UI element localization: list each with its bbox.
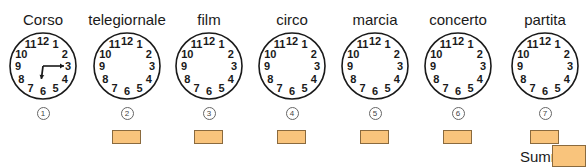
svg-text:2: 2 — [477, 48, 483, 60]
svg-text:7: 7 — [359, 82, 365, 94]
clock-number-badge: 5 — [335, 106, 415, 120]
clock-face: 121234567891011 — [92, 31, 162, 101]
svg-text:8: 8 — [433, 73, 439, 85]
clock-face: 121234567891011 — [510, 31, 580, 101]
svg-text:12: 12 — [203, 35, 215, 47]
svg-text:8: 8 — [18, 73, 24, 85]
svg-text:12: 12 — [452, 35, 464, 47]
svg-text:12: 12 — [37, 35, 49, 47]
svg-text:3: 3 — [480, 60, 486, 72]
svg-text:11: 11 — [109, 38, 121, 50]
answer-box[interactable] — [443, 130, 472, 144]
svg-text:8: 8 — [350, 73, 356, 85]
clock-number-badge: 4 — [252, 106, 332, 120]
clock-label: concerto — [418, 11, 498, 28]
svg-text:4: 4 — [564, 73, 571, 85]
svg-text:4: 4 — [62, 73, 69, 85]
answer-box[interactable] — [277, 130, 306, 144]
svg-text:9: 9 — [517, 60, 523, 72]
svg-text:4: 4 — [311, 73, 318, 85]
svg-text:11: 11 — [191, 38, 203, 50]
clock-number-badge: 2 — [87, 106, 167, 120]
svg-text:3: 3 — [149, 60, 155, 72]
svg-text:8: 8 — [520, 73, 526, 85]
clock-face: 121234567891011 — [423, 31, 493, 101]
clock-label: telegiornale — [87, 11, 167, 28]
svg-text:6: 6 — [542, 85, 548, 97]
clock-face: 121234567891011 — [8, 31, 78, 101]
svg-text:5: 5 — [467, 82, 473, 94]
svg-text:2: 2 — [62, 48, 68, 60]
clock-column-film: film 121234567891011 3 — [169, 0, 249, 168]
clock-label: partita — [505, 11, 585, 28]
svg-text:3: 3 — [567, 60, 573, 72]
clock-column-corso: Corso 121234567891011 1 — [3, 0, 83, 168]
svg-text:4: 4 — [477, 73, 484, 85]
svg-text:11: 11 — [25, 38, 37, 50]
svg-text:2: 2 — [228, 48, 234, 60]
svg-text:1: 1 — [554, 38, 560, 50]
svg-text:4: 4 — [146, 73, 153, 85]
svg-text:7: 7 — [111, 82, 117, 94]
svg-text:8: 8 — [102, 73, 108, 85]
svg-text:9: 9 — [430, 60, 436, 72]
clock-number-badge: 6 — [418, 106, 498, 120]
svg-text:5: 5 — [554, 82, 560, 94]
svg-text:11: 11 — [527, 38, 539, 50]
svg-text:6: 6 — [40, 85, 46, 97]
answer-box[interactable] — [112, 130, 141, 144]
svg-text:1: 1 — [301, 38, 307, 50]
svg-text:3: 3 — [65, 60, 71, 72]
svg-text:9: 9 — [264, 60, 270, 72]
svg-text:5: 5 — [136, 82, 142, 94]
answer-box[interactable] — [194, 130, 223, 144]
svg-text:7: 7 — [529, 82, 535, 94]
svg-text:6: 6 — [455, 85, 461, 97]
clock-column-partita: partita 121234567891011 7 — [505, 0, 585, 168]
clock-label: marcia — [335, 11, 415, 28]
svg-text:3: 3 — [314, 60, 320, 72]
svg-text:4: 4 — [394, 73, 401, 85]
clock-label: Corso — [3, 11, 83, 28]
svg-text:5: 5 — [218, 82, 224, 94]
svg-text:11: 11 — [357, 38, 369, 50]
clock-face: 121234567891011 — [257, 31, 327, 101]
clock-face: 121234567891011 — [340, 31, 410, 101]
svg-text:2: 2 — [311, 48, 317, 60]
svg-text:7: 7 — [276, 82, 282, 94]
svg-text:12: 12 — [286, 35, 298, 47]
svg-text:12: 12 — [369, 35, 381, 47]
summe-answer-box[interactable] — [552, 145, 586, 167]
svg-text:6: 6 — [289, 85, 295, 97]
clock-label: film — [169, 11, 249, 28]
svg-text:7: 7 — [193, 82, 199, 94]
svg-text:3: 3 — [231, 60, 237, 72]
svg-text:6: 6 — [372, 85, 378, 97]
svg-text:5: 5 — [301, 82, 307, 94]
svg-text:9: 9 — [15, 60, 21, 72]
clock-column-circo: circo 121234567891011 4 — [252, 0, 332, 168]
svg-text:2: 2 — [394, 48, 400, 60]
clock-column-marcia: marcia 121234567891011 5 — [335, 0, 415, 168]
svg-text:5: 5 — [384, 82, 390, 94]
svg-text:9: 9 — [181, 60, 187, 72]
svg-text:7: 7 — [27, 82, 33, 94]
svg-text:1: 1 — [218, 38, 224, 50]
svg-text:2: 2 — [146, 48, 152, 60]
answer-box[interactable] — [360, 130, 389, 144]
svg-text:3: 3 — [397, 60, 403, 72]
svg-text:9: 9 — [347, 60, 353, 72]
svg-text:4: 4 — [228, 73, 235, 85]
svg-text:12: 12 — [121, 35, 133, 47]
clock-face: 121234567891011 — [174, 31, 244, 101]
svg-text:1: 1 — [384, 38, 390, 50]
svg-text:7: 7 — [442, 82, 448, 94]
svg-text:1: 1 — [467, 38, 473, 50]
answer-box[interactable] — [530, 130, 559, 144]
clock-column-concerto: concerto 121234567891011 6 — [418, 0, 498, 168]
clock-label: circo — [252, 11, 332, 28]
svg-text:6: 6 — [206, 85, 212, 97]
svg-text:12: 12 — [539, 35, 551, 47]
clock-number-badge: 7 — [505, 106, 585, 120]
svg-text:11: 11 — [274, 38, 286, 50]
